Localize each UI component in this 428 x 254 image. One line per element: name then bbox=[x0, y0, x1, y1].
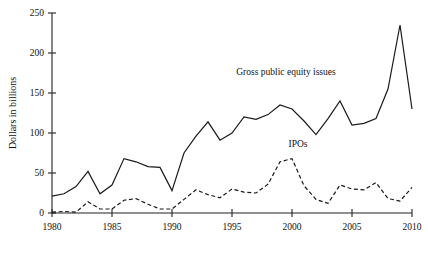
y-tick-label: 100 bbox=[30, 128, 45, 138]
y-axis-title: Dollars in billions bbox=[7, 77, 18, 149]
series-ipos bbox=[52, 159, 412, 213]
annotation-group: Gross public equity issuesIPOs bbox=[236, 67, 336, 149]
x-tick-label: 1980 bbox=[43, 222, 62, 232]
x-axis-group: 1980198519901995200020052010 bbox=[43, 209, 422, 232]
y-tick-label: 0 bbox=[39, 208, 44, 218]
chart-container: 050100150200250 Dollars in billions 1980… bbox=[0, 0, 428, 254]
x-tick-label: 1990 bbox=[163, 222, 182, 232]
series-annotation: IPOs bbox=[288, 139, 307, 149]
x-tick-label: 2005 bbox=[343, 222, 362, 232]
y-tick-label: 150 bbox=[30, 88, 45, 98]
x-tick-label: 1985 bbox=[103, 222, 122, 232]
y-axis-group: 050100150200250 Dollars in billions bbox=[7, 8, 56, 218]
series-annotation: Gross public equity issues bbox=[236, 67, 336, 77]
series-group bbox=[52, 25, 412, 212]
x-tick-label: 2010 bbox=[403, 222, 422, 232]
series-gross-public-equity-issues bbox=[52, 25, 412, 196]
y-tick-label: 250 bbox=[30, 8, 45, 18]
y-tick-label: 200 bbox=[30, 48, 45, 58]
x-tick-label: 1995 bbox=[223, 222, 242, 232]
line-chart: 050100150200250 Dollars in billions 1980… bbox=[0, 0, 428, 254]
x-tick-label: 2000 bbox=[283, 222, 302, 232]
y-tick-label: 50 bbox=[35, 168, 45, 178]
